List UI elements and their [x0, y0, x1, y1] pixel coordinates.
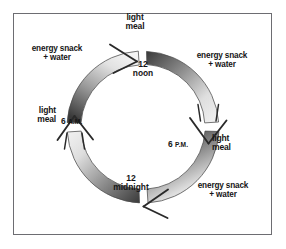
label-light-meal-right: light meal [212, 134, 256, 152]
label-light-meal-top: light meal [111, 13, 159, 31]
label-energy-snack-bottom-right: energy snack + water [186, 182, 260, 199]
time-6pm-suffix: P.M. [175, 141, 188, 148]
time-label-6am: 6 A.M. [61, 116, 82, 126]
time-midnight-word: midnight [102, 183, 160, 192]
figure-root: light meal energy snack + water energy s… [0, 0, 286, 249]
label-light-meal-left: light meal [16, 106, 56, 124]
time-label-6pm: 6 P.M. [168, 139, 188, 149]
cycle-diagram-svg [0, 0, 286, 249]
label-energy-snack-top-left: energy snack + water [21, 45, 93, 62]
time-label-midnight: 12 midnight [102, 174, 160, 192]
label-energy-snack-top-right: energy snack + water [186, 52, 258, 69]
time-noon-word: noon [126, 69, 160, 78]
time-label-noon: 12 noon [126, 60, 160, 78]
time-6am-suffix: A.M. [68, 118, 82, 125]
